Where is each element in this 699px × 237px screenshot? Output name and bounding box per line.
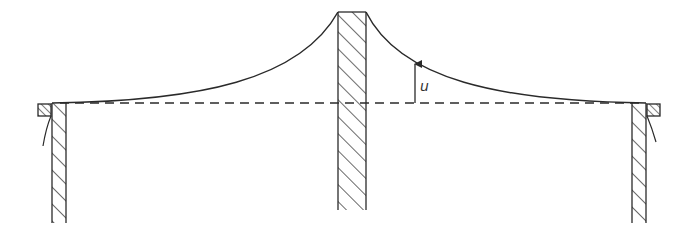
center-pillar	[338, 12, 366, 210]
right-support-wall	[632, 103, 646, 223]
membrane-diagram: u	[0, 0, 699, 237]
right-clamp-block	[647, 104, 660, 142]
displacement-label: u	[420, 78, 429, 94]
left-clamp-block	[38, 104, 51, 146]
left-support-wall	[52, 103, 66, 223]
